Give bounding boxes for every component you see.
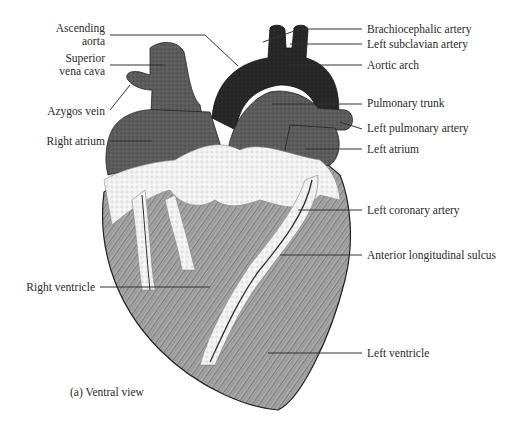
label-line: Right ventricle bbox=[26, 281, 95, 294]
figure-caption: (a) Ventral view bbox=[70, 386, 144, 398]
label-brachiocephalic-artery: Brachiocephalic artery bbox=[367, 23, 471, 36]
heart-diagram: Ascending aorta Superior vena cava Azygo… bbox=[0, 0, 521, 425]
label-left-ventricle: Left ventricle bbox=[367, 347, 429, 360]
label-line: Right atrium bbox=[47, 135, 105, 148]
label-anterior-longitudinal-sulcus: Anterior longitudinal sulcus bbox=[367, 249, 496, 262]
label-ascending-aorta: Ascending aorta bbox=[56, 22, 105, 48]
label-azygos-vein: Azygos vein bbox=[47, 105, 105, 118]
label-line: Azygos vein bbox=[47, 105, 105, 118]
label-left-subclavian-artery: Left subclavian artery bbox=[367, 38, 468, 51]
label-superior-vena-cava: Superior vena cava bbox=[59, 52, 105, 78]
label-line: aorta bbox=[56, 35, 105, 48]
label-left-coronary-artery: Left coronary artery bbox=[367, 204, 460, 217]
label-line: vena cava bbox=[59, 65, 105, 78]
label-left-atrium: Left atrium bbox=[367, 143, 419, 156]
label-line: Ascending bbox=[56, 22, 105, 35]
label-left-pulmonary-artery: Left pulmonary artery bbox=[367, 122, 469, 135]
label-right-ventricle: Right ventricle bbox=[26, 281, 95, 294]
label-line: Superior bbox=[59, 52, 105, 65]
label-right-atrium: Right atrium bbox=[47, 135, 105, 148]
label-aortic-arch: Aortic arch bbox=[367, 59, 419, 72]
label-pulmonary-trunk: Pulmonary trunk bbox=[367, 97, 445, 110]
